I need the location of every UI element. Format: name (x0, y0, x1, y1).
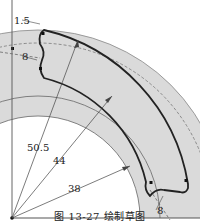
axis-point (11, 47, 14, 50)
dim-label-50-5: 50.5 (27, 142, 49, 153)
sketch-drawing: 1.5 8 50.5 44 38 8 (0, 0, 200, 224)
sketch-point (150, 181, 153, 184)
dim-label-8-top: 8 (22, 51, 28, 62)
sketch-point (39, 67, 42, 70)
dim-label-44: 44 (53, 155, 66, 166)
sketch-point (185, 179, 188, 182)
dim-label-1-5: 1.5 (14, 15, 30, 26)
sketch-point (42, 32, 45, 35)
dim-label-38: 38 (68, 183, 81, 194)
figure-caption: 图 13-27 绘制草图 (0, 208, 200, 223)
